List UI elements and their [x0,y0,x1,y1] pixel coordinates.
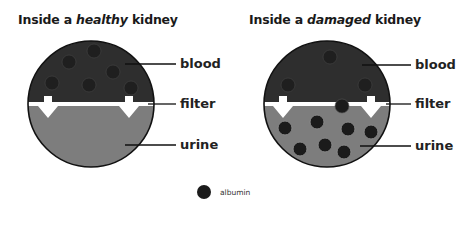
filter-line [255,102,405,106]
legend: albumin [197,185,250,199]
albumin-dot-icon [106,65,120,79]
albumin-dot-icon [45,76,59,90]
albumin-dot-icon [278,121,292,135]
urine-label: urine [415,138,453,153]
damaged-kidney-circle [255,30,411,184]
albumin-dot-icon [281,78,295,92]
albumin-dot-icon [341,122,355,136]
albumin-dot-icon [87,44,101,58]
healthy-kidney-circle [20,30,176,184]
albumin-dot-icon [318,138,332,152]
albumin-dot-icon [310,115,324,129]
legend-label: albumin [220,188,250,197]
blood-label: blood [180,56,221,71]
filter-albumin-dot-icon [335,99,349,113]
albumin-dot-icon [197,185,211,199]
albumin-dot-icon [364,125,378,139]
filter-line [20,102,170,106]
albumin-dot-icon [293,142,307,156]
albumin-dot-icon [323,50,337,64]
albumin-dot-icon [358,78,372,92]
filter-label: filter [180,96,216,111]
urine-label: urine [180,137,218,152]
blood-label: blood [415,57,456,72]
albumin-dot-icon [337,145,351,159]
filter-label: filter [415,96,451,111]
albumin-dot-icon [62,55,76,69]
albumin-dot-icon [124,81,138,95]
albumin-dot-icon [82,78,96,92]
